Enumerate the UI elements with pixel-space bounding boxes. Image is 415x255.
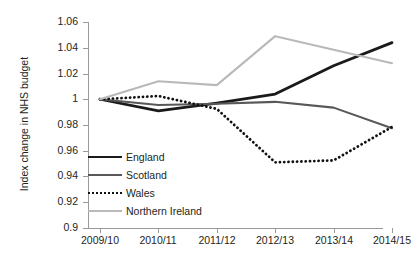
y-axis-tick-label: 0.96 — [4, 145, 78, 156]
y-axis-tick-label: 0.98 — [4, 119, 78, 130]
y-axis-tick-label: 0.92 — [4, 196, 78, 207]
x-axis-tick — [392, 228, 393, 233]
y-axis-tick-label: 1 — [4, 93, 78, 104]
legend-item-wales[interactable]: Wales — [88, 184, 202, 202]
legend-swatch-icon — [88, 187, 122, 199]
y-axis-tick-label: 1.04 — [4, 42, 78, 53]
legend-label: England — [126, 152, 165, 163]
y-axis-tick — [83, 125, 88, 126]
series-line-scotland — [100, 99, 392, 128]
legend-label: Scotland — [126, 170, 167, 181]
nhs-budget-index-line-chart: Index change in NHS budget 1.061.041.021… — [0, 0, 415, 255]
x-axis-tick — [158, 228, 159, 233]
legend-item-scotland[interactable]: Scotland — [88, 166, 202, 184]
legend-label: Wales — [126, 188, 155, 199]
legend-item-northern-ireland[interactable]: Northern Ireland — [88, 202, 202, 220]
x-axis-line — [88, 228, 383, 229]
x-axis-tick-label: 2014/15 — [357, 235, 415, 247]
legend-label: Northern Ireland — [126, 206, 202, 217]
legend-swatch-icon — [88, 151, 122, 163]
y-axis-tick-label: 1.06 — [4, 16, 78, 27]
y-axis-tick-label: 1.02 — [4, 68, 78, 79]
legend-swatch-icon — [88, 169, 122, 181]
x-axis-tick — [275, 228, 276, 233]
x-axis-tick — [334, 228, 335, 233]
y-axis-tick — [83, 22, 88, 23]
series-line-northern-ireland — [100, 36, 392, 99]
y-axis-tick — [83, 228, 88, 229]
y-axis-tick — [83, 74, 88, 75]
y-axis-tick-label: 0.9 — [4, 222, 78, 233]
chart-legend: EnglandScotlandWalesNorthern Ireland — [88, 148, 202, 220]
x-axis-tick — [217, 228, 218, 233]
chart-title — [30, 0, 360, 3]
legend-item-england[interactable]: England — [88, 148, 202, 166]
y-axis-tick — [83, 48, 88, 49]
y-axis-tick-label: 0.94 — [4, 170, 78, 181]
series-line-england — [100, 43, 392, 111]
x-axis-tick — [100, 228, 101, 233]
legend-swatch-icon — [88, 205, 122, 217]
y-axis-tick — [83, 99, 88, 100]
